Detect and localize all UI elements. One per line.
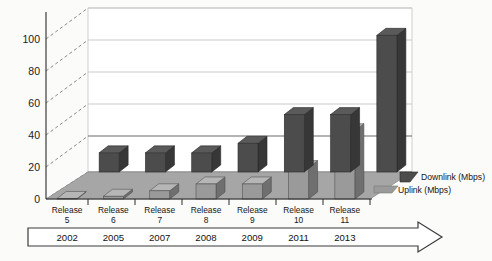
bar-chart-3d: 100 80 60 40 20 0 Release5Release6Releas… xyxy=(0,0,492,261)
timeline-arrow xyxy=(28,222,442,252)
bar-downlink-2 xyxy=(192,146,221,172)
legend-label-uplink: Uplink (Mbps) xyxy=(398,185,451,195)
timeline-year-3: 2008 xyxy=(195,232,216,243)
timeline-year-4: 2009 xyxy=(242,232,263,243)
x-category-top-3: Release xyxy=(191,205,222,215)
timeline-year-1: 2005 xyxy=(103,232,124,243)
x-category-bottom-3: 8 xyxy=(204,215,209,225)
x-category-labels: Release5Release6Release7Release8Release9… xyxy=(52,205,361,225)
bar-uplink-3 xyxy=(196,177,225,199)
legend-swatch-uplink xyxy=(374,186,398,193)
x-category-top-6: Release xyxy=(329,205,360,215)
y-tick-20: 20 xyxy=(28,161,40,173)
bar-downlink-5 xyxy=(331,108,360,172)
y-tick-labels: 100 80 60 40 20 0 xyxy=(22,33,40,205)
timeline-year-2: 2007 xyxy=(149,232,170,243)
bar-downlink-3 xyxy=(238,136,267,172)
y-tick-100: 100 xyxy=(22,33,40,45)
bar-uplink-4 xyxy=(242,177,271,199)
x-category-bottom-5: 10 xyxy=(294,215,304,225)
timeline-year-0: 2002 xyxy=(56,232,77,243)
x-category-bottom-0: 5 xyxy=(65,215,70,225)
y-tick-60: 60 xyxy=(28,97,40,109)
axis-depth-connectors xyxy=(46,8,88,199)
legend-label-downlink: Downlink (Mbps) xyxy=(421,172,485,182)
bar-downlink-1 xyxy=(145,146,174,172)
timeline-year-6: 2013 xyxy=(334,232,355,243)
bar-downlink-6 xyxy=(377,28,406,172)
x-category-bottom-6: 11 xyxy=(341,215,350,225)
y-tick-40: 40 xyxy=(28,129,40,141)
legend-swatch-downlink xyxy=(400,172,418,182)
bar-downlink-4 xyxy=(284,108,313,172)
x-category-top-0: Release xyxy=(52,205,83,215)
x-category-top-4: Release xyxy=(237,205,268,215)
bar-downlink-0 xyxy=(99,146,128,172)
x-category-bottom-2: 7 xyxy=(157,215,162,225)
x-category-top-2: Release xyxy=(144,205,175,215)
x-category-bottom-4: 9 xyxy=(250,215,255,225)
x-category-bottom-1: 6 xyxy=(111,215,116,225)
x-category-top-5: Release xyxy=(283,205,314,215)
y-tick-0: 0 xyxy=(34,193,40,205)
timeline-year-5: 2011 xyxy=(288,232,309,243)
y-tick-80: 80 xyxy=(28,65,40,77)
x-category-top-1: Release xyxy=(98,205,129,215)
chart-container: 100 80 60 40 20 0 Release5Release6Releas… xyxy=(0,0,492,261)
